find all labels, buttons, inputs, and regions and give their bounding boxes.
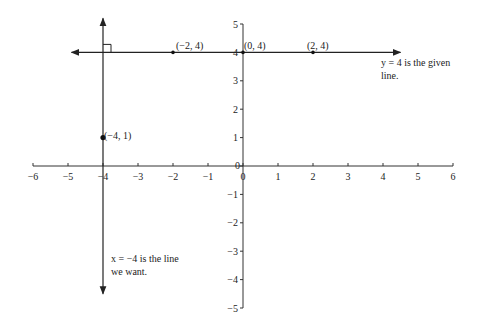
point-label-neg4-1: (−4, 1) xyxy=(104,129,131,142)
y-tick-label: −3 xyxy=(227,246,238,257)
x-tick-label: 5 xyxy=(416,171,421,182)
y-tick-label: 1 xyxy=(233,132,238,143)
point-label-0-4: (0, 4) xyxy=(244,39,266,52)
x-tick-label: −5 xyxy=(63,171,74,182)
given-line-text-2: line. xyxy=(381,69,450,82)
wanted-line-text-1: x = −4 is the line xyxy=(111,252,179,265)
y-tick-label: 5 xyxy=(233,19,238,30)
coordinate-plane: −6−5−4−3−2−101234560−5−4−3−2−112345 (−2,… xyxy=(0,0,484,331)
data-point xyxy=(171,51,175,55)
x-tick-label: −1 xyxy=(203,171,214,182)
x-tick-label: 4 xyxy=(381,171,386,182)
y-tick-label: −4 xyxy=(227,274,238,285)
given-line-annotation: y = 4 is the given line. xyxy=(381,56,450,82)
x-tick-label: 3 xyxy=(346,171,351,182)
y-tick-label: 3 xyxy=(233,75,238,86)
given-line-text-1: y = 4 is the given xyxy=(381,56,450,69)
y-tick-label: −1 xyxy=(227,189,238,200)
x-tick-label: −2 xyxy=(168,171,179,182)
x-tick-label: 6 xyxy=(451,171,456,182)
x-tick-label: 2 xyxy=(311,171,316,182)
wanted-line-annotation: x = −4 is the line we want. xyxy=(111,252,179,278)
plot-canvas: −6−5−4−3−2−101234560−5−4−3−2−112345 xyxy=(0,0,484,331)
x-tick-label: −6 xyxy=(28,171,39,182)
y-tick-label: −5 xyxy=(227,303,238,314)
point-label-2-4: (2, 4) xyxy=(307,39,329,52)
wanted-line-text-2: we want. xyxy=(111,265,179,278)
y-tick-label: −2 xyxy=(227,217,238,228)
x-tick-label: −3 xyxy=(133,171,144,182)
x-tick-label: 1 xyxy=(276,171,281,182)
right-angle-marker xyxy=(103,44,111,52)
y-tick-label: 2 xyxy=(233,104,238,115)
origin-label: 0 xyxy=(235,160,240,171)
point-label-neg2-4: (−2, 4) xyxy=(176,39,203,52)
